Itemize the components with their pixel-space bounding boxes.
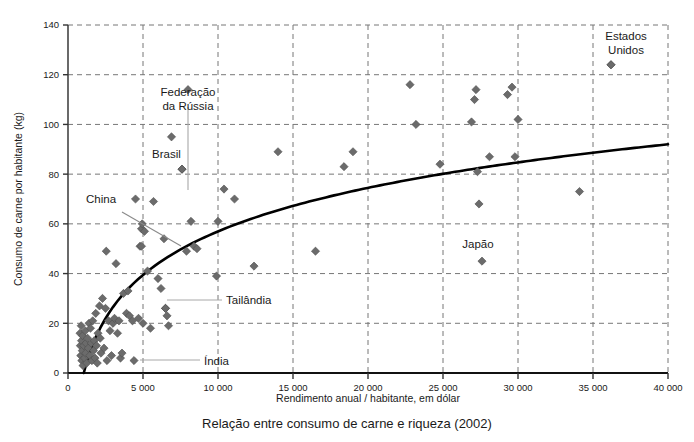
data-point-marker-brasil <box>178 165 186 173</box>
data-point-group <box>76 61 615 370</box>
x-axis-title: Rendimento anual / habitante, em dólar <box>276 392 460 404</box>
data-point-marker <box>230 195 238 203</box>
figure-caption: Relação entre consumo de carne e riqueza… <box>202 416 492 431</box>
annotation-label-russia-line2: da Rússia <box>162 100 214 112</box>
data-point-marker <box>92 309 100 317</box>
annotation-label-brasil: Brasil <box>152 148 181 160</box>
trend-curve <box>84 144 668 373</box>
data-point-marker <box>154 274 162 282</box>
data-point-marker <box>131 195 139 203</box>
data-point-marker <box>514 115 522 123</box>
data-point-marker <box>311 247 319 255</box>
x-tick-label: 10 000 <box>203 382 232 393</box>
annotation-label-estados-unidos-line1: Estados <box>605 30 647 42</box>
annotation-label-india: Índia <box>204 355 230 367</box>
data-point-marker <box>470 95 478 103</box>
y-axis-ticks: 020406080100120140 <box>43 19 68 378</box>
x-tick-label: 35 000 <box>578 382 607 393</box>
x-tick-label: 40 000 <box>653 382 682 393</box>
data-point-marker <box>250 262 258 270</box>
y-tick-label: 120 <box>43 69 59 80</box>
data-point-marker <box>163 312 171 320</box>
data-point-marker <box>157 284 165 292</box>
chart-figure: 020406080100120140 05 00010 00015 00020 … <box>0 0 694 442</box>
data-point-marker-estados-unidos <box>607 61 615 69</box>
data-point-marker <box>106 327 114 335</box>
data-point-marker <box>412 120 420 128</box>
annotation-label-russia-line1: Federação <box>161 86 216 98</box>
data-point-marker--ndia <box>130 356 138 364</box>
annotation-label-china: China <box>86 193 117 205</box>
data-point-marker <box>340 163 348 171</box>
data-point-marker <box>102 247 110 255</box>
x-tick-label: 0 <box>65 382 70 393</box>
data-point-marker <box>575 187 583 195</box>
leader-line-china <box>122 212 181 246</box>
data-point-marker <box>149 197 157 205</box>
x-tick-label: 5 000 <box>131 382 155 393</box>
scatter-plot-svg: 020406080100120140 05 00010 00015 00020 … <box>0 0 694 442</box>
data-point-marker <box>472 86 480 94</box>
data-point-marker-tail-ndia <box>161 304 169 312</box>
x-tick-label: 30 000 <box>503 382 532 393</box>
data-point-marker <box>98 294 106 302</box>
y-tick-label: 0 <box>54 367 59 378</box>
data-point-marker <box>478 257 486 265</box>
data-point-marker <box>406 81 414 89</box>
data-point-marker <box>503 91 511 99</box>
data-point-marker <box>475 200 483 208</box>
data-point-marker <box>508 83 516 91</box>
data-point-marker <box>113 329 121 337</box>
annotation-label-tailandia: Tailândia <box>226 294 272 306</box>
data-point-marker <box>220 185 228 193</box>
y-tick-label: 100 <box>43 119 59 130</box>
y-axis-title: Consumo de carne por habitante (kg) <box>12 112 24 286</box>
data-point-marker <box>485 153 493 161</box>
annotation-leader-lines <box>122 107 222 360</box>
data-point-marker <box>112 260 120 268</box>
x-axis-ticks: 05 00010 00015 00020 00025 00030 00035 0… <box>65 373 682 393</box>
y-tick-label: 60 <box>48 218 59 229</box>
y-tick-label: 80 <box>48 169 59 180</box>
gridlines-vertical <box>143 25 668 373</box>
data-point-marker <box>167 133 175 141</box>
data-point-marker <box>146 324 154 332</box>
annotation-label-japao: Japão <box>462 238 493 250</box>
data-point-marker <box>274 148 282 156</box>
y-tick-label: 140 <box>43 19 59 30</box>
y-tick-label: 20 <box>48 318 59 329</box>
y-tick-label: 40 <box>48 268 59 279</box>
annotation-label-estados-unidos-line2: Unidos <box>608 44 644 56</box>
data-point-marker <box>349 148 357 156</box>
